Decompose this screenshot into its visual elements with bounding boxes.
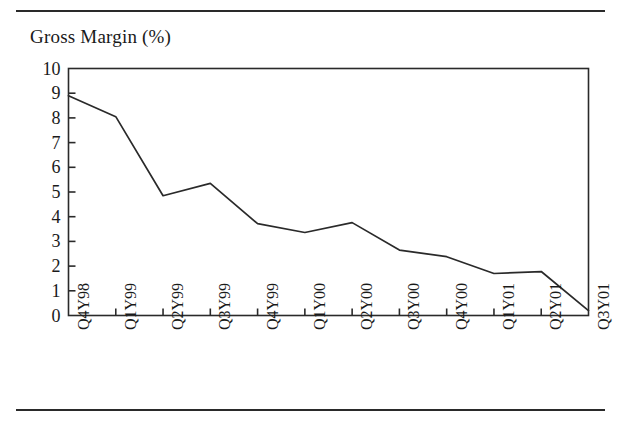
y-axis-tick-label: 2 bbox=[27, 257, 61, 275]
y-axis-tick-label: 9 bbox=[27, 84, 61, 102]
x-axis-tick-label: Q3Y00 bbox=[406, 282, 422, 329]
series-line bbox=[69, 96, 589, 311]
y-axis-tick-label: 4 bbox=[27, 208, 61, 226]
x-axis-tick-label: Q3Y01 bbox=[596, 282, 612, 329]
axes-frame bbox=[69, 69, 589, 316]
x-axis-tick-label: Q1Y01 bbox=[501, 282, 517, 329]
data-series-line bbox=[69, 96, 589, 311]
x-axis-tick-label: Q4Y98 bbox=[76, 282, 92, 329]
line-chart-svg bbox=[0, 0, 621, 434]
x-axis-tick-label: Q4Y99 bbox=[265, 282, 281, 329]
x-axis-tick-label: Q3Y99 bbox=[217, 282, 233, 329]
x-axis-tick-label: Q2Y01 bbox=[548, 282, 564, 329]
y-axis-tick-label: 7 bbox=[27, 134, 61, 152]
y-axis-tick-label: 6 bbox=[27, 158, 61, 176]
plot-area: 109876543210 Q4Y98Q1Y99Q2Y99Q3Y99Q4Y99Q1… bbox=[0, 0, 621, 434]
x-axis-tick-label: Q1Y00 bbox=[312, 282, 328, 329]
x-axis-tick-label: Q2Y99 bbox=[170, 282, 186, 329]
y-axis-ticks bbox=[69, 93, 76, 291]
y-axis-tick-label: 3 bbox=[27, 232, 61, 250]
y-axis-tick-label: 0 bbox=[27, 307, 61, 325]
plot-frame bbox=[69, 69, 589, 316]
x-axis-tick-label: Q2Y00 bbox=[359, 282, 375, 329]
bottom-rule bbox=[16, 409, 605, 411]
x-axis-tick-label: Q4Y00 bbox=[454, 282, 470, 329]
y-axis-tick-label: 8 bbox=[27, 109, 61, 127]
figure-container: Gross Margin (%) 109876543210 Q4Y98Q1Y99… bbox=[0, 0, 621, 434]
y-axis-tick-label: 10 bbox=[27, 60, 61, 78]
x-axis-tick-label: Q1Y99 bbox=[123, 282, 139, 329]
y-axis-tick-label: 5 bbox=[27, 183, 61, 201]
y-axis-tick-label: 1 bbox=[27, 282, 61, 300]
